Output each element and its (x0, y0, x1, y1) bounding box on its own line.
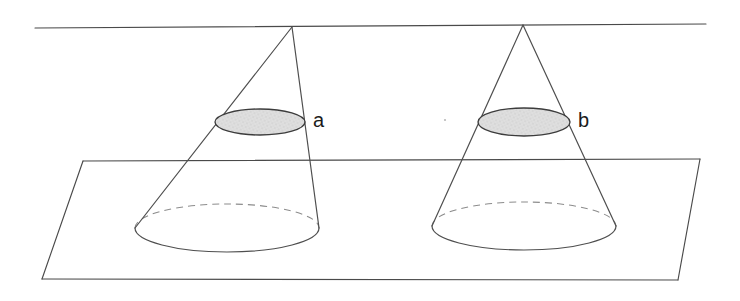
label-b: b (578, 109, 589, 131)
top-plane-edge-line (35, 24, 706, 28)
left-cone-base-visible-arc (135, 228, 319, 252)
figure-container: a b (0, 0, 740, 301)
right-cone (432, 25, 616, 250)
left-cone-section-ellipse (215, 109, 305, 135)
right-cone-base-visible-arc (432, 226, 616, 250)
top-plane (35, 24, 706, 28)
cone-cross-section-diagram: a b (0, 0, 740, 301)
bottom-plane-back-edge (83, 159, 700, 161)
right-cone-base-hidden-arc (432, 202, 616, 226)
bottom-plane-right-edge (678, 159, 700, 280)
bottom-plane (42, 159, 700, 280)
bottom-plane-left-edge (42, 161, 83, 279)
right-cone-section-ellipse (478, 108, 570, 136)
label-a: a (313, 109, 325, 131)
scan-speck-artifact (444, 119, 446, 121)
left-cone-base-hidden-arc (135, 204, 319, 228)
bottom-plane-front-edge (42, 279, 678, 280)
left-cone (135, 27, 319, 252)
